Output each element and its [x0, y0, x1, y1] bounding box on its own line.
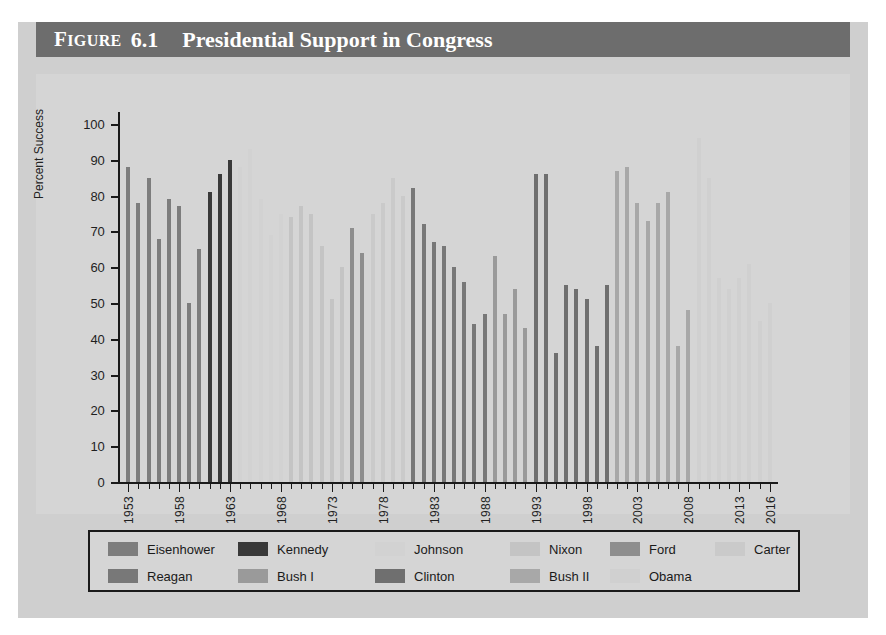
x-tick: [352, 484, 353, 489]
bar: [228, 160, 232, 482]
legend-label: Eisenhower: [147, 542, 215, 557]
legend-label: Bush II: [549, 569, 589, 584]
bar: [554, 353, 558, 482]
legend-label: Kennedy: [277, 542, 328, 557]
x-tick-label: 1973: [326, 496, 340, 524]
x-tick: [261, 484, 262, 489]
legend-swatch: [108, 542, 138, 556]
bar: [462, 282, 466, 482]
x-tick: [393, 484, 394, 489]
legend-swatch: [715, 542, 745, 556]
x-tick: [240, 484, 241, 489]
bar: [126, 167, 130, 482]
figure-title: Presidential Support in Congress: [182, 27, 492, 53]
bar: [299, 206, 303, 482]
plot-area: Percent Success 0102030405060708090100 1…: [36, 74, 850, 514]
bar: [483, 314, 487, 482]
x-tick: [454, 484, 455, 489]
bar: [157, 239, 161, 482]
bar: [381, 203, 385, 482]
x-tick-label: 1978: [377, 496, 391, 524]
x-tick: [464, 484, 465, 489]
x-tick: [230, 484, 231, 492]
figure-number: 6.1: [131, 27, 159, 53]
bar: [147, 178, 151, 482]
x-tick: [138, 484, 139, 489]
bar: [534, 174, 538, 482]
bar: [676, 346, 680, 482]
x-tick: [413, 484, 414, 489]
x-tick: [658, 484, 659, 489]
y-tick-label: 80: [90, 188, 104, 203]
x-tick: [311, 484, 312, 489]
y-tick-label: 90: [90, 152, 104, 167]
bar: [422, 224, 426, 482]
x-tick: [149, 484, 150, 489]
x-tick: [301, 484, 302, 489]
legend-item: Ford: [610, 536, 676, 562]
bar: [269, 235, 273, 482]
bar: [340, 267, 344, 482]
bar: [595, 346, 599, 482]
bar: [747, 264, 751, 482]
x-tick: [627, 484, 628, 489]
bar: [656, 203, 660, 482]
x-tick: [505, 484, 506, 489]
x-tick: [648, 484, 649, 489]
bar: [360, 253, 364, 482]
bar: [136, 203, 140, 482]
figure-title-bar: FIGURE 6.1 Presidential Support in Congr…: [36, 22, 850, 57]
x-tick: [424, 484, 425, 489]
y-tick-label: 100: [83, 117, 105, 132]
y-tick-label: 70: [90, 224, 104, 239]
legend-label: Reagan: [147, 569, 193, 584]
x-tick: [770, 484, 771, 492]
bar: [737, 278, 741, 482]
x-tick: [749, 484, 750, 489]
x-tick: [220, 484, 221, 489]
bar: [472, 324, 476, 482]
x-tick: [739, 484, 740, 492]
y-tick: [111, 267, 118, 269]
bar: [401, 196, 405, 482]
legend-label: Ford: [649, 542, 676, 557]
x-tick-label: 1988: [479, 496, 493, 524]
legend-item: Carter: [715, 536, 790, 562]
x-tick-label: 2008: [682, 496, 696, 524]
x-tick: [169, 484, 170, 489]
bar: [350, 228, 354, 482]
y-tick-label: 40: [90, 331, 104, 346]
legend-swatch: [510, 542, 540, 556]
bar: [758, 321, 762, 482]
x-tick: [159, 484, 160, 489]
y-tick: [111, 231, 118, 233]
x-tick-label: 1968: [275, 496, 289, 524]
bar: [309, 214, 313, 483]
y-tick-label: 0: [98, 475, 105, 490]
legend-label: Clinton: [414, 569, 454, 584]
x-tick: [668, 484, 669, 489]
y-tick: [111, 482, 118, 484]
x-tick-label: 1958: [173, 496, 187, 524]
legend-label: Johnson: [414, 542, 463, 557]
bar: [727, 289, 731, 482]
bar: [635, 203, 639, 482]
legend-label: Carter: [754, 542, 790, 557]
bar: [238, 167, 242, 482]
x-tick: [403, 484, 404, 489]
y-tick: [111, 339, 118, 341]
x-tick: [189, 484, 190, 489]
x-tick: [322, 484, 323, 489]
figure-label: FIGURE: [54, 27, 122, 52]
bar: [218, 174, 222, 482]
x-tick: [210, 484, 211, 489]
x-tick: [474, 484, 475, 489]
x-tick: [709, 484, 710, 489]
bar: [646, 221, 650, 482]
bar: [197, 249, 201, 482]
x-tick: [485, 484, 486, 492]
x-tick: [271, 484, 272, 489]
legend-swatch: [610, 542, 640, 556]
x-tick: [444, 484, 445, 489]
legend-item: Obama: [610, 563, 692, 589]
